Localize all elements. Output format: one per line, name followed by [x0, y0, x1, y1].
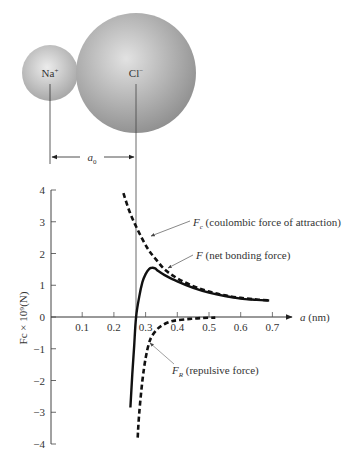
y-tick-label: 2: [40, 248, 46, 260]
y-tick-label: 4: [40, 184, 46, 196]
y-tick-label: −2: [33, 375, 45, 387]
a0-label: a0: [88, 151, 98, 166]
fc-curve: [123, 193, 269, 300]
x-tick-label: 0.5: [202, 321, 216, 333]
f-leader: [168, 255, 193, 268]
nacl-bonding-force-diagram: Na+ Cl− a0 43210−1−2−3−4 0.10.20.30.40.5…: [0, 0, 347, 466]
y-tick-label: −3: [33, 406, 45, 418]
y-axis-label: Fc × 10⁹(N): [17, 291, 30, 344]
x-tick-label: 0.1: [75, 321, 89, 333]
x-tick-label: 0.4: [170, 321, 184, 333]
fr-curve: [138, 318, 216, 438]
y-tick-label: 1: [40, 279, 46, 291]
x-axis-label: a (nm): [300, 311, 330, 324]
fr-leader: [150, 343, 174, 364]
x-ticks: 0.10.20.30.40.50.60.7: [75, 312, 279, 333]
fr-annotation: FR (repulsive force): [171, 364, 259, 379]
y-tick-label: 3: [40, 216, 46, 228]
f-annotation: F (net bonding force): [195, 249, 291, 262]
y-tick-label: 0: [40, 311, 46, 323]
x-tick-label: 0.6: [234, 321, 248, 333]
x-tick-label: 0.3: [139, 321, 153, 333]
fc-leader: [151, 221, 190, 236]
annotations: Fc (coulombic force of attraction) F (ne…: [150, 216, 341, 379]
x-tick-label: 0.7: [266, 321, 280, 333]
y-ticks: 43210−1−2−3−4: [33, 184, 56, 450]
equilibrium-spacing-dimension: a0: [52, 151, 134, 166]
net-force-curve: [130, 268, 269, 408]
y-tick-label: −1: [33, 343, 45, 355]
fc-annotation: Fc (coulombic force of attraction): [192, 216, 341, 231]
y-tick-label: −4: [33, 438, 45, 450]
x-tick-label: 0.2: [107, 321, 121, 333]
